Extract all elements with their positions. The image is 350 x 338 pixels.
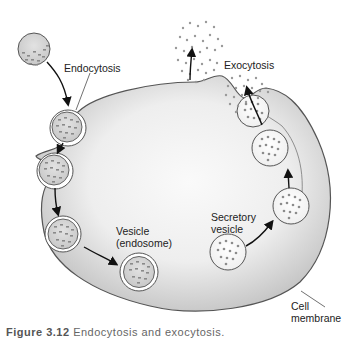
label-secretory-line1: Secretory xyxy=(211,211,256,223)
caption-number: Figure 3.12 xyxy=(6,326,70,338)
label-cell-membrane: Cell membrane xyxy=(291,300,341,324)
label-vesicle-line2: (endosome) xyxy=(116,237,172,249)
label-membrane-line2: membrane xyxy=(291,312,341,324)
caption-text: Endocytosis and exocytosis. xyxy=(73,326,225,338)
label-vesicle: Vesicle (endosome) xyxy=(116,225,172,249)
label-exocytosis: Exocytosis xyxy=(224,59,274,71)
label-vesicle-line1: Vesicle xyxy=(116,225,172,237)
label-membrane-line1: Cell xyxy=(291,300,341,312)
label-secretory-line2: vesicle xyxy=(211,223,256,235)
figure-caption: Figure 3.12 Endocytosis and exocytosis. xyxy=(6,326,225,338)
label-endocytosis: Endocytosis xyxy=(64,62,121,74)
label-secretory-vesicle: Secretory vesicle xyxy=(211,211,256,235)
